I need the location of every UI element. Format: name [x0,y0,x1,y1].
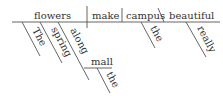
object-word: campus [126,10,165,21]
modifier-word-the: The [30,26,49,48]
verb-word: make [92,10,120,21]
object-complement-word: beautiful [169,10,214,21]
preposition-object-word: mall [91,56,113,67]
sentence-diagram: flowers make campus beautiful The spring… [0,0,223,100]
modifier-word-really: really [195,24,218,55]
subject-word: flowers [34,10,71,21]
